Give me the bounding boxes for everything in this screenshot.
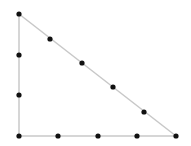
- point-dot: [16, 11, 21, 16]
- point-dot: [16, 92, 21, 97]
- point-dot: [134, 133, 139, 138]
- triangle-edges: [19, 14, 176, 136]
- point-dot: [16, 52, 21, 57]
- point-dot: [173, 133, 178, 138]
- point-dot: [141, 109, 146, 114]
- hypotenuse-edge: [19, 14, 176, 136]
- triangle-diagram: [0, 0, 191, 146]
- point-dot: [47, 36, 52, 41]
- point-dot: [110, 84, 115, 89]
- point-dot: [95, 133, 100, 138]
- point-dot: [55, 133, 60, 138]
- point-dot: [16, 133, 21, 138]
- point-dot: [79, 60, 84, 65]
